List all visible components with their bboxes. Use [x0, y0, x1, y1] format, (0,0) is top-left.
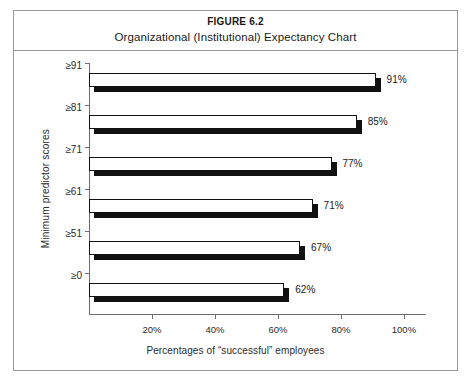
bar-face: [89, 283, 284, 297]
y-tick-mark: [85, 147, 89, 148]
x-tick-mark: [278, 315, 279, 319]
y-category-label: ≥61: [65, 186, 82, 197]
y-category-label: ≥71: [65, 144, 82, 155]
figure-container: FIGURE 6.2 Organizational (Institutional…: [13, 10, 458, 371]
bar-face: [89, 199, 313, 213]
x-tick-label: 80%: [331, 324, 350, 335]
bar-face: [89, 73, 376, 87]
figure-title-block: FIGURE 6.2 Organizational (Institutional…: [14, 11, 457, 51]
x-tick-mark: [341, 315, 342, 319]
y-axis-line: [89, 63, 90, 315]
y-category-label: ≥91: [65, 60, 82, 71]
bar-value-label: 85%: [368, 116, 388, 127]
y-category-label: ≥81: [65, 102, 82, 113]
x-axis-line: [89, 314, 426, 315]
bar-value-label: 77%: [343, 158, 363, 169]
x-tick-mark: [404, 315, 405, 319]
figure-number: FIGURE 6.2: [14, 15, 457, 29]
page-title: Organizational (Institutional) Expectanc…: [14, 29, 457, 45]
x-tick-label: 20%: [142, 324, 161, 335]
x-tick-label: 40%: [205, 324, 224, 335]
x-axis-title: Percentages of “successful” employees: [14, 345, 457, 356]
bar-face: [89, 241, 300, 255]
y-tick-mark: [85, 105, 89, 106]
x-tick-mark: [215, 315, 216, 319]
bar-value-label: 71%: [324, 200, 344, 211]
bar-face: [89, 157, 332, 171]
x-tick-mark: [152, 315, 153, 319]
x-tick-label: 100%: [392, 324, 416, 335]
plot-area: 20%40%60%80%100% 62%≥067%≥5171%≥6177%≥71…: [89, 63, 426, 315]
bar-value-label: 91%: [387, 74, 407, 85]
bar-face: [89, 115, 357, 129]
bar-item[interactable]: 62%≥0: [89, 283, 289, 302]
y-tick-mark: [85, 231, 89, 232]
y-category-label: ≥51: [65, 228, 82, 239]
bar-item[interactable]: 91%≥91: [89, 73, 381, 92]
y-axis-title: Minimum predictor scores: [40, 129, 51, 248]
y-category-label: ≥0: [71, 270, 82, 281]
bar-item[interactable]: 67%≥51: [89, 241, 305, 260]
bar-item[interactable]: 77%≥71: [89, 157, 337, 176]
bar-value-label: 62%: [295, 284, 315, 295]
bar-item[interactable]: 85%≥81: [89, 115, 362, 134]
y-tick-mark: [85, 63, 89, 64]
bar-item[interactable]: 71%≥61: [89, 199, 318, 218]
x-tick-label: 60%: [268, 324, 287, 335]
y-tick-mark: [85, 273, 89, 274]
y-tick-mark: [85, 189, 89, 190]
bar-value-label: 67%: [311, 242, 331, 253]
